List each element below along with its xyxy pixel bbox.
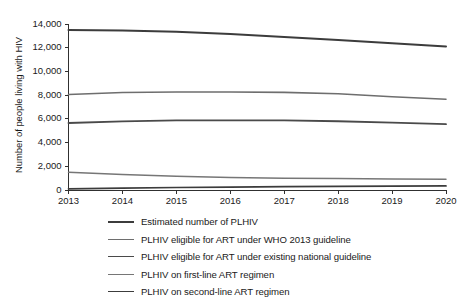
y-tick-label: 10,000 [32,65,61,76]
y-tick-label: 2,000 [38,160,62,171]
legend-item-label: PLHIV on second-line ART regimen [141,286,290,297]
x-tick-label: 2013 [58,195,79,206]
series-line-2 [69,120,447,124]
legend-item[interactable]: PLHIV on first-line ART regimen [108,266,458,284]
series-line-3 [69,172,447,179]
legend-item-label: Estimated number of PLHIV [141,216,258,227]
y-tick-label: 4,000 [38,136,62,147]
series-line-0 [69,30,447,47]
x-tick-label: 2014 [112,195,133,206]
x-tick-label: 2017 [274,195,295,206]
x-tick-label: 2015 [166,195,187,206]
y-tick-label: 12,000 [32,41,61,52]
series-line-4 [69,186,447,189]
legend-item[interactable]: PLHIV on second-line ART regimen [108,283,458,301]
legend-swatch-icon [108,291,134,292]
y-tick-label: 8,000 [38,89,62,100]
legend-item-label: PLHIV on first-line ART regimen [141,269,274,280]
legend-item-label: PLHIV eligible for ART under existing na… [141,251,371,262]
y-tick-label: 0 [56,184,61,195]
line-chart: Number of people living with HIV 02,0004… [0,0,462,306]
legend-swatch-icon [108,221,134,223]
y-tick-label: 6,000 [38,112,62,123]
x-tick-label: 2020 [435,195,456,206]
legend-item[interactable]: PLHIV eligible for ART under existing na… [108,248,458,266]
y-tick-label: 14,000 [32,18,61,29]
legend-item-label: PLHIV eligible for ART under WHO 2013 gu… [141,234,351,245]
legend-swatch-icon [108,256,134,257]
x-tick-label: 2016 [220,195,241,206]
legend-item[interactable]: PLHIV eligible for ART under WHO 2013 gu… [108,231,458,249]
chart-legend: Estimated number of PLHIV PLHIV eligible… [108,213,458,301]
series-line-1 [69,92,447,99]
x-tick-label: 2018 [328,195,349,206]
x-tick-label: 2019 [382,195,403,206]
legend-swatch-icon [108,239,134,240]
legend-item[interactable]: Estimated number of PLHIV [108,213,458,231]
legend-swatch-icon [108,274,134,275]
